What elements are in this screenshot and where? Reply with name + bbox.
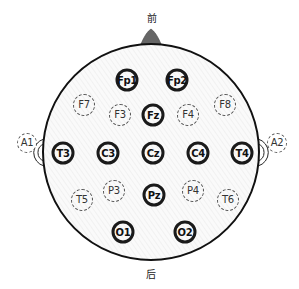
electrode-label: Fp1 <box>117 75 137 85</box>
electrode-label: T3 <box>56 148 69 158</box>
electrode-label: Pz <box>148 190 161 200</box>
electrode-t3: T3 <box>52 142 75 165</box>
front-label: 前 <box>147 10 157 25</box>
electrode-label: T6 <box>222 195 234 205</box>
electrode-p4: P4 <box>182 180 204 202</box>
back-label: 后 <box>146 266 156 281</box>
electrode-f4: F4 <box>177 104 199 126</box>
electrode-fp2: Fp2 <box>166 69 189 92</box>
electrode-f8: F8 <box>214 94 236 116</box>
electrode-label: T5 <box>76 195 88 205</box>
electrode-p3: P3 <box>103 180 125 202</box>
electrode-label: O2 <box>178 227 193 237</box>
electrode-t4: T4 <box>231 142 254 165</box>
nose-shape <box>141 29 161 44</box>
electrode-t5: T5 <box>71 189 93 211</box>
electrode-label: P3 <box>108 186 120 196</box>
electrode-label: O1 <box>116 227 131 237</box>
electrode-label: F3 <box>114 110 126 120</box>
electrode-label: Fp2 <box>167 75 187 85</box>
electrode-a2: A2 <box>267 133 287 153</box>
electrode-t6: T6 <box>217 189 239 211</box>
electrode-label: F4 <box>182 110 194 120</box>
electrode-o1: O1 <box>112 221 135 244</box>
electrode-o2: O2 <box>174 221 197 244</box>
electrode-pz: Pz <box>143 184 166 207</box>
electrode-fz: Fz <box>142 104 165 127</box>
electrode-f3: F3 <box>109 104 131 126</box>
electrode-c4: C4 <box>187 142 210 165</box>
electrode-label: F7 <box>78 100 90 110</box>
electrode-a1: A1 <box>17 133 37 153</box>
electrode-label: C4 <box>191 148 205 158</box>
eeg-10-20-diagram: 前 后 Fp1Fp2F7F3FzF4F8T3C3CzC4T4T5P3PzP4T6… <box>0 0 299 289</box>
electrode-f7: F7 <box>73 94 95 116</box>
electrode-label: T4 <box>235 148 248 158</box>
electrode-c3: C3 <box>97 142 120 165</box>
electrode-label: A1 <box>21 138 34 148</box>
electrode-label: P4 <box>187 186 199 196</box>
electrode-label: Fz <box>147 110 159 120</box>
electrode-fp1: Fp1 <box>116 69 139 92</box>
electrode-label: A2 <box>271 138 284 148</box>
electrode-label: Cz <box>147 148 160 158</box>
electrode-label: C3 <box>101 148 115 158</box>
electrode-label: F8 <box>219 100 231 110</box>
electrode-cz: Cz <box>142 142 165 165</box>
